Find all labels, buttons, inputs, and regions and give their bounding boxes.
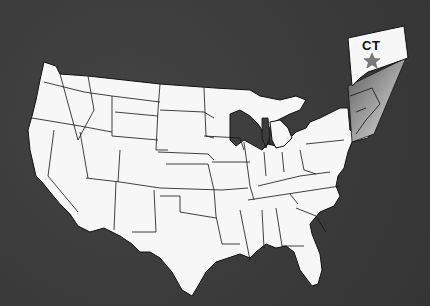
state-label-ct: CT <box>362 38 380 53</box>
map-canvas: CT <box>0 0 430 306</box>
us-outline <box>28 62 372 296</box>
